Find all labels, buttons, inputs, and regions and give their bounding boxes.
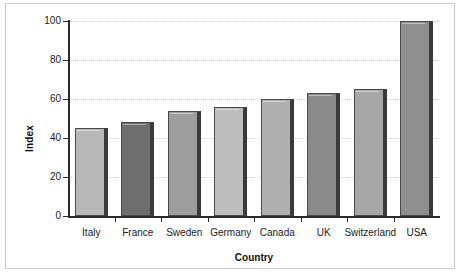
- bar-sweden: [168, 111, 201, 216]
- x-tick-mark: [254, 217, 255, 222]
- y-tick-mark: [63, 99, 68, 100]
- bar-top-highlight: [309, 95, 332, 96]
- y-tick-label: 20: [30, 172, 61, 182]
- y-tick-label: 0: [30, 211, 61, 221]
- x-tick-label-france: France: [122, 227, 153, 238]
- gridline: [68, 60, 440, 62]
- x-tick-mark: [301, 217, 302, 222]
- gridline: [68, 21, 440, 23]
- x-tick-mark: [161, 217, 162, 222]
- bar-top-highlight: [216, 109, 239, 110]
- x-tick-label-uk: UK: [317, 227, 331, 238]
- bar-top-highlight: [356, 91, 379, 92]
- bar-switzerland: [354, 89, 387, 216]
- bar-uk: [307, 93, 340, 216]
- x-tick-label-switzerland: Switzerland: [344, 227, 396, 238]
- x-tick-label-sweden: Sweden: [166, 227, 202, 238]
- bar-top-highlight: [170, 113, 193, 114]
- y-tick-label: 60: [30, 94, 61, 104]
- x-tick-label-italy: Italy: [82, 227, 100, 238]
- y-tick-mark: [63, 21, 68, 22]
- y-tick-label: 80: [30, 55, 61, 65]
- plot-area: 020406080100 ItalyFranceSwedenGermanyCan…: [68, 21, 440, 216]
- y-tick-mark: [63, 216, 68, 217]
- x-tick-mark: [208, 217, 209, 222]
- x-tick-mark: [394, 217, 395, 222]
- bar-top-highlight: [263, 101, 286, 102]
- x-tick-mark: [115, 217, 116, 222]
- bar-top-highlight: [402, 23, 425, 24]
- y-tick-label: 40: [30, 133, 61, 143]
- bar-germany: [214, 107, 247, 216]
- y-tick-mark: [63, 60, 68, 61]
- y-tick-mark: [63, 177, 68, 178]
- chart-frame: Index 020406080100 ItalyFranceSwedenGerm…: [5, 3, 455, 269]
- y-axis-line: [68, 20, 70, 217]
- bar-usa: [400, 21, 433, 216]
- y-tick-label: 100: [30, 16, 61, 26]
- x-axis-title: Country: [68, 252, 440, 263]
- bar-italy: [75, 128, 108, 216]
- x-tick-label-germany: Germany: [210, 227, 251, 238]
- bar-canada: [261, 99, 294, 216]
- bar-france: [121, 122, 154, 216]
- x-tick-label-canada: Canada: [260, 227, 295, 238]
- x-tick-label-usa: USA: [406, 227, 427, 238]
- bar-top-highlight: [123, 124, 146, 125]
- bar-top-highlight: [77, 130, 100, 131]
- y-tick-mark: [63, 138, 68, 139]
- x-tick-mark: [347, 217, 348, 222]
